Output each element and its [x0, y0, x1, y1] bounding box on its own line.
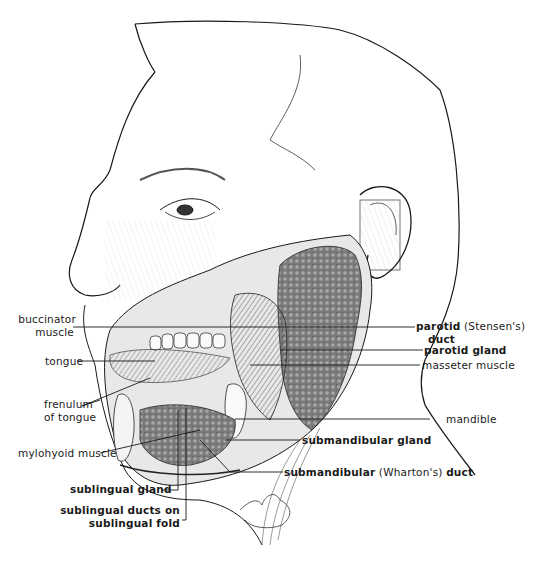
label-submandibular-duct-end: duct: [446, 466, 473, 478]
label-mylohyoid-muscle: mylohyoid muscle: [18, 447, 117, 460]
label-sublingual-gland: sublingual gland: [70, 483, 172, 496]
label-mandible: mandible: [446, 413, 497, 426]
label-buccinator-muscle: buccinator muscle: [18, 313, 76, 339]
label-parotid-duct-paren: (Stensen's): [464, 320, 525, 332]
label-tongue: tongue: [45, 355, 83, 368]
label-submandibular-duct: submandibular (Wharton's) duct: [284, 466, 473, 479]
label-parotid-duct: parotid (Stensen's) duct: [416, 320, 525, 346]
head-dissection-illustration: [0, 0, 544, 585]
label-frenulum-line1: frenulum: [44, 398, 96, 411]
parotid-gland: [278, 246, 362, 430]
label-submandibular-duct-bold: submandibular: [284, 466, 375, 478]
label-frenulum-line2: of tongue: [44, 411, 96, 424]
label-sublingual-ducts-line1: sublingual ducts on: [56, 504, 180, 517]
label-parotid-duct-bold: parotid: [416, 320, 461, 332]
label-parotid-gland: parotid gland: [424, 344, 507, 357]
label-sublingual-ducts: sublingual ducts on sublingual fold: [56, 504, 180, 530]
label-buccinator-line2: muscle: [18, 326, 76, 339]
label-submandibular-gland: submandibular gland: [302, 434, 431, 447]
label-submandibular-duct-paren: (Wharton's): [379, 466, 443, 478]
label-sublingual-ducts-line2: sublingual fold: [56, 517, 180, 530]
label-masseter-muscle: masseter muscle: [422, 359, 515, 372]
eye: [140, 169, 225, 220]
label-buccinator-line1: buccinator: [18, 313, 76, 326]
label-frenulum-of-tongue: frenulum of tongue: [44, 398, 96, 424]
